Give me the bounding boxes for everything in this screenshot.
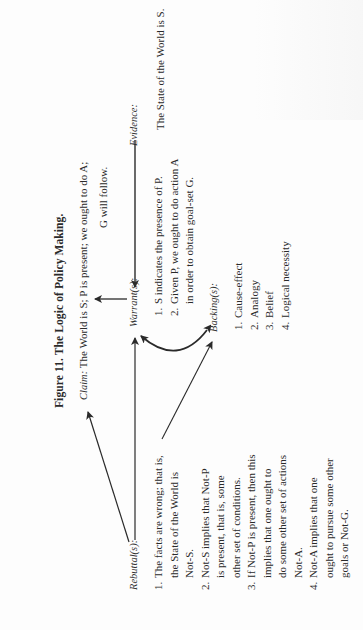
figure-rotated-canvas: Figure 11. The Logic of Policy Making. C… xyxy=(0,0,363,630)
backing-warrant-curved-arrow xyxy=(141,330,207,351)
rebuttal-to-claim-arrow xyxy=(88,412,129,542)
argument-arrows xyxy=(0,0,363,630)
rebuttal-to-backing-arrow xyxy=(162,342,212,439)
